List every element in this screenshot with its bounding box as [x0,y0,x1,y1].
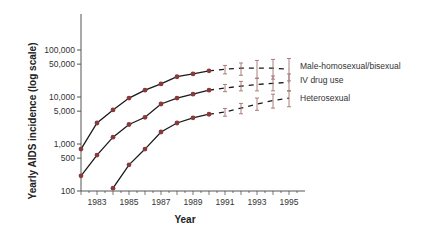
x-tick-label: 1993 [248,197,267,207]
data-point-marker [95,153,100,158]
data-point-marker [127,122,132,127]
series-1 [79,74,291,178]
projection-line [209,98,289,114]
data-point-marker [191,115,196,120]
data-point-marker [207,88,212,93]
error-bar [255,60,259,78]
y-tick-label: 100 [61,186,75,196]
legend-label-2: Heterosexual [300,93,350,103]
y-tick-label: 100,000 [44,45,75,55]
y-tick-label: 10,000 [49,92,75,102]
error-bar [287,74,291,91]
x-tick-label: 1985 [120,197,139,207]
data-point-marker [143,88,148,93]
legend: Male-homosexual/bisexualIV drug useHeter… [300,61,401,103]
data-point-marker [175,96,180,101]
y-tick-label: 5,000 [54,106,76,116]
projection-line [209,82,289,90]
y-axis-title: Yearly AIDS incidence (log scale) [27,43,38,200]
data-point-marker [175,74,180,79]
series-layer [79,58,291,190]
projection-line [209,68,289,71]
data-point-marker [191,72,196,77]
data-point-marker [143,147,148,152]
observed-line [81,90,209,176]
x-axis-title: Year [174,214,195,225]
data-point-marker [111,186,116,191]
y-tick-label: 50,000 [49,59,75,69]
data-point-marker [127,96,132,101]
data-point-marker [127,162,132,167]
x-tick-label: 1991 [216,197,235,207]
data-point-marker [79,147,84,152]
data-point-marker [143,115,148,120]
data-point-marker [111,108,116,113]
axes: 1005001,0005,00010,00050,000100,00019831… [44,14,305,207]
data-point-marker [191,92,196,97]
data-point-marker [95,121,100,126]
error-bar [239,63,243,75]
x-tick-label: 1989 [184,197,203,207]
observed-line [81,71,209,149]
aids-incidence-chart: 1005001,0005,00010,00050,000100,00019831… [0,0,427,233]
y-tick-label: 1,000 [54,139,76,149]
data-point-marker [175,121,180,126]
y-tick-label: 500 [61,153,75,163]
data-point-marker [207,112,212,117]
error-bar [255,78,259,91]
legend-label-1: IV drug use [300,75,344,85]
data-point-marker [159,130,164,135]
data-point-marker [79,173,84,178]
series-2 [111,91,291,191]
x-tick-label: 1987 [152,197,171,207]
data-point-marker [111,135,116,140]
x-tick-label: 1983 [88,197,107,207]
data-point-marker [207,68,212,73]
x-tick-label: 1995 [280,197,299,207]
series-0 [79,58,291,151]
data-point-marker [159,102,164,107]
data-point-marker [159,81,164,86]
legend-label-0: Male-homosexual/bisexual [300,61,401,71]
